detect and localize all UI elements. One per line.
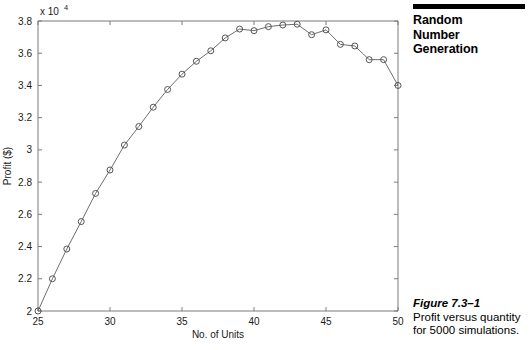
running-head-line-2: Number (413, 28, 525, 43)
x-tick-label-1: 30 (104, 316, 116, 327)
y-tick-label-2: 2.4 (18, 241, 32, 252)
y-axis-exponent: x 104 (40, 3, 68, 17)
y-tick-label-0: 2 (26, 306, 32, 317)
x-tick-label-2: 35 (176, 316, 188, 327)
figure-panel: 22.22.42.62.833.23.43.63.8253035404550x … (0, 0, 404, 350)
y-tick-label-1: 2.2 (18, 273, 32, 284)
figure-caption-label: Figure 7.3–1 (413, 297, 530, 311)
margin-panel: RandomNumberGeneration Figure 7.3–1 Prof… (404, 0, 530, 350)
x-tick-label-5: 50 (392, 316, 404, 327)
y-tick-label-3: 2.6 (18, 209, 32, 220)
y-tick-label-8: 3.6 (18, 48, 32, 59)
running-head-rule (413, 4, 525, 9)
y-tick-label-5: 3 (26, 144, 32, 155)
y-tick-label-6: 3.2 (18, 112, 32, 123)
x-axis-title: No. of Units (192, 329, 244, 340)
figure-caption-text: Profit versus quantity for 5000 simulati… (413, 311, 530, 338)
y-tick-label-7: 3.4 (18, 80, 32, 91)
y-tick-label-9: 3.8 (18, 16, 32, 27)
running-head-title: RandomNumberGeneration (413, 13, 525, 57)
data-series-line (38, 24, 398, 311)
y-tick-label-4: 2.8 (18, 177, 32, 188)
axes-frame (38, 21, 398, 311)
y-axis-exponent-mantissa: x 10 (40, 6, 59, 17)
y-axis-exponent-power: 4 (64, 3, 68, 12)
y-axis-title: Profit ($) (2, 147, 13, 185)
figure-caption: Figure 7.3–1 Profit versus quantity for … (413, 297, 530, 338)
x-tick-label-4: 45 (320, 316, 332, 327)
running-head-line-3: Generation (413, 42, 525, 57)
x-tick-label-0: 25 (32, 316, 44, 327)
running-head: RandomNumberGeneration (413, 4, 525, 57)
profit-vs-quantity-chart: 22.22.42.62.833.23.43.63.8253035404550x … (0, 0, 404, 350)
running-head-line-1: Random (413, 13, 525, 28)
x-tick-label-3: 40 (248, 316, 260, 327)
